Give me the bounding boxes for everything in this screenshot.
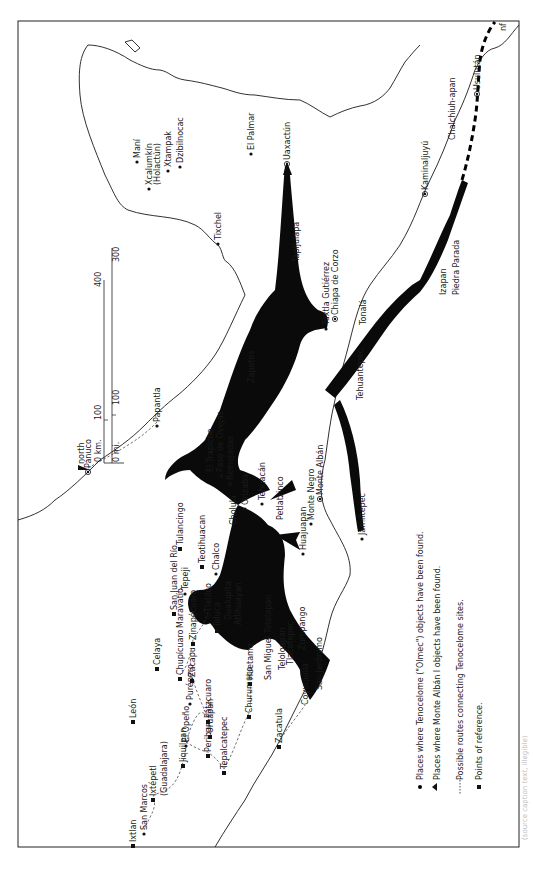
reference-square-icon: [178, 677, 182, 681]
place-tixchel: Tixchel: [214, 212, 223, 246]
site-dot-icon: [155, 424, 158, 427]
place-monte-negro: Monte Negro: [307, 468, 316, 525]
reference-square-icon: [131, 844, 135, 848]
legend-triangle-icon: [432, 783, 437, 791]
place-label: (Holactún): [153, 143, 162, 185]
place-kaminaljuy: Kaminaljuyú: [421, 141, 430, 197]
place-man: Maní: [133, 138, 142, 163]
place-label: Tonalá: [359, 299, 368, 326]
place-label: Tapijulapa: [292, 222, 301, 263]
place-label: Celaya: [153, 638, 162, 665]
place-xtampak: Xtampak: [164, 131, 173, 173]
site-dot-icon: [214, 572, 217, 575]
reference-square-icon: [155, 667, 159, 671]
legend: Places where Tenocelome ("Olmec") object…: [416, 531, 484, 795]
site-dot-icon: [188, 702, 191, 705]
place-label: Teotihuacan: [198, 515, 207, 564]
place-churumuco: Churumuco: [245, 667, 254, 719]
place-monte-alb-n: Monte Albán: [316, 445, 325, 502]
site-dot-icon: [260, 502, 263, 505]
site-dot-icon: [142, 832, 145, 835]
map-caption: (source caption text, illegible): [521, 735, 529, 840]
place-dzibilnocac: Dzibilnocac: [176, 117, 185, 168]
place-chalco: Chalco: [212, 543, 221, 576]
place-petlatzinco: Petlatzinco: [276, 476, 285, 520]
scale-mi-300: 300: [112, 247, 121, 262]
place-maravat-o: Maravatío: [176, 588, 185, 628]
scale-km-400: 400: [94, 272, 103, 287]
place-label: Usulután: [473, 55, 482, 91]
place-orizaba: Orizaba: [241, 474, 250, 511]
place-izapan: Izapan: [439, 268, 448, 295]
reference-square-icon: [228, 482, 232, 486]
place-zapotes: Zapotes: [247, 350, 256, 383]
coastline-pacific: [215, 25, 519, 847]
reference-square-icon: [191, 642, 195, 646]
legend-circle-icon: [418, 785, 422, 789]
place-label: San Marcos: [140, 784, 149, 830]
place-holact-n: (Holactún): [153, 143, 162, 185]
place-chiapa-de-corzo: Chiapa de Corzo: [331, 249, 340, 321]
place-label: Remojadas: [226, 436, 235, 480]
site-dot-icon: [216, 242, 219, 245]
legend-square-icon: [477, 785, 481, 789]
scale-km-100: 100: [94, 405, 103, 420]
reference-square-icon: [181, 764, 185, 768]
place-tonal: Tonalá: [359, 299, 368, 326]
place-label: Jiquilpan: [179, 728, 188, 763]
place-label: Xtampak: [164, 131, 173, 167]
place-label: Petlatzinco: [276, 476, 285, 520]
place-ixt-petl: Ixtépetl: [148, 765, 158, 802]
place-label: San Jerónimo: [314, 637, 324, 690]
coastline-yucatan-east: [88, 45, 420, 117]
place-label: Maní: [133, 138, 142, 158]
coastline-gulf: [18, 295, 245, 520]
place-label: Tlatilco: [204, 583, 213, 613]
site-dot-icon: [249, 152, 252, 155]
place-piedra-parada: Piedra Parada: [452, 240, 461, 295]
place-label: Zacatula: [275, 708, 284, 743]
site-dot-icon: [178, 165, 181, 168]
place-zacapu: Zacapu: [188, 647, 197, 683]
place-usulut-n: Usulután: [473, 55, 482, 97]
reference-square-icon: [206, 754, 210, 758]
site-dot-icon: [166, 169, 169, 172]
place-label: Ixtépetl: [148, 765, 158, 796]
place-jiquilpan: Jiquilpan: [179, 728, 188, 768]
olmec-region-gulf-heartland: [165, 165, 328, 505]
place-label: Tepalcatepec: [220, 717, 229, 770]
place-label: León: [128, 699, 138, 718]
place-label: Orizaba: [241, 474, 250, 505]
place-el-trapiche: El Trapiche: [206, 429, 215, 472]
place-tlacotepec: Tlacotepec: [286, 621, 295, 666]
reference-square-icon: [247, 715, 251, 719]
place-teotihuacan: Teotihuacan: [198, 515, 207, 569]
place-jamiltepec: Jamiltepec: [358, 493, 367, 541]
place-label: Zacapu: [188, 647, 197, 677]
reference-square-icon: [215, 629, 219, 633]
place-chalchiuh-apan: Chalchiuh-apan: [448, 78, 457, 140]
place-label: Monte Albán: [316, 445, 325, 495]
legend-item-olmec: Places where Tenocelome ("Olmec") object…: [416, 531, 425, 780]
place-cholula: Cholula: [229, 495, 238, 525]
place-label: Uaxactún: [283, 122, 292, 160]
place-remojadas: Remojadas: [226, 436, 235, 486]
place-label: Chalco: [212, 543, 221, 570]
place-label: Tulancingo: [176, 502, 185, 546]
place-label: Ixtlan: [129, 820, 138, 842]
place-tuxtla-guti-rrez: Tuxtla Gutiérrez: [321, 262, 331, 331]
reference-square-icon: [200, 565, 204, 569]
place-zumpango: Zumpango: [298, 607, 307, 650]
dashed-route-chalchiuhapan: [462, 22, 495, 180]
island: [125, 40, 140, 52]
place-label: Chiapa de Corzo: [331, 249, 340, 315]
place-label: Chalchiuh-apan: [448, 78, 457, 140]
place-label: Maravatío: [176, 588, 185, 628]
place-tepalcatepec: Tepalcatepec: [220, 717, 229, 775]
legend-item-routes: Possible routes connecting Tenocelome si…: [456, 599, 465, 780]
reference-square-icon: [277, 745, 281, 749]
place-label: Izapan: [439, 268, 448, 295]
place-label: (Guadalajara): [160, 741, 169, 796]
legend-item-reference: Points of reference.: [475, 702, 484, 780]
place-label: Jamiltepec: [358, 493, 367, 536]
